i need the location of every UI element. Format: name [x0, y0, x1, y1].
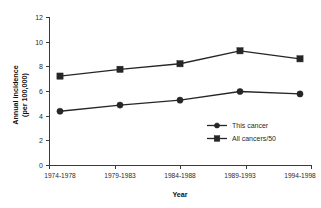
x-tick-label: 1974-1978 [44, 172, 76, 179]
data-point-circle [57, 108, 63, 114]
y-tick-label: 2 [39, 137, 43, 144]
x-tick-label: 1979-1983 [104, 172, 136, 179]
y-axis-title: Annual incidence (per 100,000) [11, 65, 29, 125]
x-tick-label: 1994-1998 [284, 172, 316, 179]
data-point-circle [297, 91, 303, 97]
legend-item-this-cancer[interactable]: This cancer [207, 122, 269, 129]
y-tick-label: 6 [39, 88, 43, 95]
y-axis-title-line1: Annual incidence [11, 65, 20, 125]
y-tick-label: 12 [35, 14, 43, 21]
y-tick-label: 4 [39, 113, 43, 120]
data-point-square [57, 73, 63, 79]
data-point-square [297, 56, 303, 62]
chart-figure: 0 2 4 6 8 10 12 1974-1978 1979-1983 1984… [0, 0, 321, 208]
legend-item-all-cancers[interactable]: All cancers/50 [207, 135, 276, 142]
data-point-square [177, 61, 183, 67]
legend-label-this-cancer: This cancer [232, 122, 269, 129]
legend-marker-circle-icon [214, 123, 219, 128]
y-axis-title-line2: (per 100,000) [20, 72, 29, 117]
data-point-square [117, 66, 123, 72]
data-point-circle [117, 102, 123, 108]
data-point-circle [237, 88, 243, 94]
data-point-square [237, 48, 243, 54]
legend-marker-square-icon [214, 136, 220, 142]
y-tick-label: 0 [39, 162, 43, 169]
data-point-circle [177, 97, 183, 103]
y-tick-label: 8 [39, 63, 43, 70]
y-tick-label: 10 [35, 39, 43, 46]
x-axis-title: Year [172, 190, 187, 199]
line-chart: 0 2 4 6 8 10 12 1974-1978 1979-1983 1984… [0, 0, 321, 208]
legend-label-all-cancers: All cancers/50 [232, 135, 276, 142]
x-tick-label: 1984-1988 [164, 172, 196, 179]
x-tick-label: 1989-1993 [224, 172, 256, 179]
